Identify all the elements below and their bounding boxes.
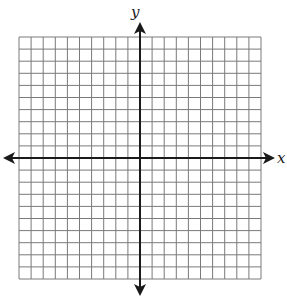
x-axis-label: x xyxy=(277,149,286,167)
coordinate-plane: x y xyxy=(0,0,287,303)
y-axis-label: y xyxy=(130,3,140,21)
